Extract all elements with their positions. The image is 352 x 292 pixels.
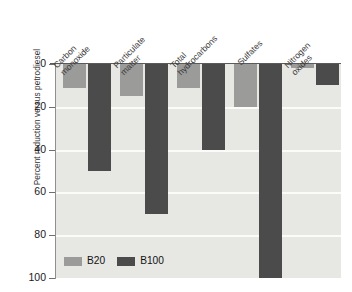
- gridline-80: [55, 235, 341, 237]
- y-tick-label-20: 20: [6, 101, 46, 112]
- y-tick-label-0: 0: [6, 58, 46, 69]
- bar-b100-total-hydrocarbons: [202, 64, 225, 150]
- bar-b100-carbon-monoxide: [88, 64, 111, 171]
- chart-legend: B20 B100: [64, 256, 164, 266]
- legend-entry-b20: B20: [64, 256, 105, 266]
- y-tick-mark-20: [49, 107, 55, 108]
- bar-chart: Percent reduction versus petrodiesel 0 2…: [0, 0, 352, 292]
- y-tick-mark-100: [49, 278, 55, 279]
- y-tick-label-80: 80: [6, 229, 46, 240]
- legend-label-b100: B100: [140, 256, 164, 266]
- y-tick-label-60: 60: [6, 186, 46, 197]
- bar-b100-nitrogen-oxides: [316, 64, 339, 85]
- y-tick-mark-40: [49, 150, 55, 151]
- y-tick-mark-60: [49, 192, 55, 193]
- bar-b20-sulfates: [234, 64, 257, 107]
- bar-b100-particulate-matter: [145, 64, 168, 214]
- legend-label-b20: B20: [87, 256, 105, 266]
- gridline-60: [55, 192, 341, 194]
- y-tick-label-40: 40: [6, 144, 46, 155]
- y-tick-mark-80: [49, 235, 55, 236]
- y-tick-label-100: 100: [6, 272, 46, 283]
- plot-area: [55, 64, 341, 278]
- legend-swatch-icon-b100: [117, 257, 135, 266]
- bar-b100-sulfates: [259, 64, 282, 278]
- legend-entry-b100: B100: [117, 256, 164, 266]
- legend-swatch-icon-b20: [64, 257, 82, 266]
- y-axis-line: [55, 64, 56, 279]
